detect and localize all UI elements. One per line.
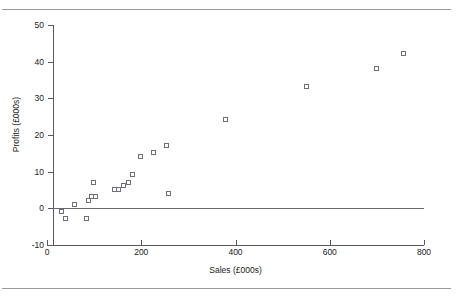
y-tick-label: 0 — [0, 204, 44, 213]
y-tick-label: 20 — [0, 131, 44, 140]
x-tick — [47, 240, 48, 245]
data-point — [374, 66, 379, 71]
x-axis-title: Sales (£000s) — [47, 266, 424, 275]
y-tick-label: 40 — [0, 58, 44, 67]
y-tick — [48, 245, 53, 246]
data-point — [304, 84, 309, 89]
y-tick — [48, 25, 53, 26]
y-axis-line — [53, 25, 54, 245]
x-tick-label: 600 — [310, 248, 350, 257]
data-point — [93, 194, 98, 199]
y-tick-label: 10 — [0, 168, 44, 177]
data-point — [121, 183, 126, 188]
data-point — [164, 143, 169, 148]
data-point — [138, 154, 143, 159]
data-point — [59, 209, 64, 214]
data-point — [401, 51, 406, 56]
x-tick — [141, 240, 142, 245]
data-point — [84, 216, 89, 221]
data-point — [166, 191, 171, 196]
y-tick — [48, 135, 53, 136]
y-tick — [48, 208, 53, 209]
y-axis-title: Profits (£000s) — [12, 80, 21, 170]
x-axis-line — [47, 245, 424, 246]
data-point — [223, 117, 228, 122]
x-tick — [330, 240, 331, 245]
y-tick — [48, 98, 53, 99]
y-tick — [48, 172, 53, 173]
x-tick — [424, 240, 425, 245]
data-point — [72, 202, 77, 207]
data-point — [91, 180, 96, 185]
data-point — [130, 172, 135, 177]
y-tick-label: 50 — [0, 21, 44, 30]
data-point — [63, 216, 68, 221]
page-root: -1001020304050 0200400600800 Sales (£000… — [0, 0, 476, 302]
zero-reference-line — [53, 208, 424, 209]
scatter-plot: -1001020304050 0200400600800 Sales (£000… — [0, 0, 476, 302]
data-point — [151, 150, 156, 155]
x-tick — [236, 240, 237, 245]
y-tick — [48, 62, 53, 63]
y-tick-label: 30 — [0, 94, 44, 103]
x-tick-label: 200 — [121, 248, 161, 257]
data-point — [126, 180, 131, 185]
x-tick-label: 800 — [404, 248, 444, 257]
x-tick-label: 0 — [27, 248, 67, 257]
x-tick-label: 400 — [216, 248, 256, 257]
